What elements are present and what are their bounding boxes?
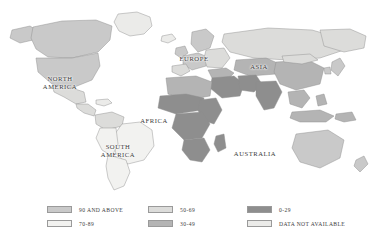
- legend-swatch-30-49: [148, 220, 173, 227]
- legend-swatch-data-not-available: [247, 220, 272, 227]
- legend-item: 70-89: [47, 218, 123, 229]
- legend-item: DATA NOT AVAILABLE: [247, 218, 345, 229]
- legend-swatch-50-69: [148, 206, 173, 213]
- legend-swatch-0-29: [247, 206, 272, 213]
- legend-swatch-90-and-above: [47, 206, 72, 213]
- legend-label: DATA NOT AVAILABLE: [279, 221, 345, 227]
- legend-item: 50-69: [148, 204, 195, 215]
- world-map-figure: NORTH AMERICA EUROPE ASIA AFRICA SOUTH A…: [0, 0, 388, 251]
- legend-label: 30-49: [180, 221, 195, 227]
- country-korea: [324, 67, 331, 74]
- legend-label: 70-89: [79, 221, 94, 227]
- legend-item: 30-49: [148, 218, 195, 229]
- legend-label: 90 AND ABOVE: [79, 207, 123, 213]
- legend-item: 0-29: [247, 204, 345, 215]
- map-canvas: [0, 0, 388, 200]
- legend-label: 50-69: [180, 207, 195, 213]
- legend-label: 0-29: [279, 207, 291, 213]
- legend-column-1: 90 AND ABOVE 70-89: [47, 204, 123, 232]
- map-legend: 90 AND ABOVE 70-89 50-69 30-49 0-29: [0, 200, 388, 251]
- legend-swatch-70-89: [47, 220, 72, 227]
- legend-column-3: 0-29 DATA NOT AVAILABLE: [247, 204, 345, 232]
- legend-column-2: 50-69 30-49: [148, 204, 195, 232]
- legend-item: 90 AND ABOVE: [47, 204, 123, 215]
